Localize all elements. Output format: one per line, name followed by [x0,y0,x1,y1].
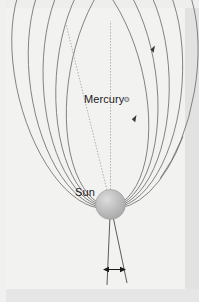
sun-label: Sun [75,186,95,198]
figure-bottom-margin [0,289,199,302]
figure-background [0,0,199,302]
mercury-planet-dot [125,97,129,101]
orbit-precession-figure: Sun Mercury [0,0,199,302]
mercury-label: Mercury [84,93,125,105]
figure-top-margin [0,0,199,8]
sun-sphere [96,190,126,220]
sun-body [96,190,126,220]
orbit-diagram-canvas: Sun Mercury [0,0,199,302]
figure-left-margin [0,0,6,302]
figure-right-margin [185,0,199,302]
